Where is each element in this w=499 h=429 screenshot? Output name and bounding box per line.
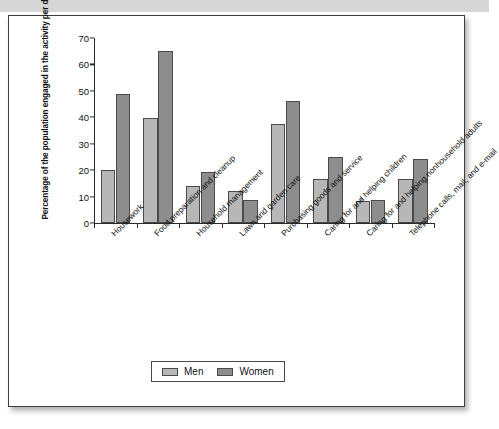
x-tick-mark	[392, 223, 393, 228]
bar-women-5	[328, 157, 343, 223]
legend-swatch-men	[162, 368, 178, 376]
bar-men-1	[143, 118, 158, 222]
legend-swatch-women	[217, 368, 233, 376]
x-tick-mark	[264, 223, 265, 228]
plot-region: 010203040506070	[94, 38, 434, 224]
x-tick-mark	[349, 223, 350, 228]
y-tick-mark	[90, 37, 94, 38]
y-tick-mark	[90, 170, 94, 171]
x-tick-mark	[307, 223, 308, 228]
chart-card: Percentage of the population engaged in …	[8, 15, 465, 407]
chart-legend: Men Women	[151, 361, 285, 382]
legend-item-men: Men	[162, 366, 203, 377]
y-tick-label: 70	[78, 33, 89, 44]
legend-label-men: Men	[184, 366, 203, 377]
y-tick-label: 20	[78, 165, 89, 176]
page-top-band	[0, 0, 489, 12]
x-tick-mark	[222, 223, 223, 228]
y-tick-mark	[90, 196, 94, 197]
legend-label-women: Women	[239, 366, 273, 377]
y-axis-line	[94, 38, 95, 224]
x-tick-mark	[94, 223, 95, 228]
y-tick-mark	[90, 143, 94, 144]
y-axis-title: Percentage of the population engaged in …	[41, 34, 51, 219]
bar-women-3	[243, 200, 258, 222]
bar-women-0	[116, 94, 131, 222]
legend-item-women: Women	[217, 366, 273, 377]
x-tick-mark	[137, 223, 138, 228]
bar-women-4	[286, 101, 301, 223]
y-tick-label: 60	[78, 59, 89, 70]
y-tick-label: 10	[78, 191, 89, 202]
bar-men-6	[356, 201, 371, 222]
bar-men-7	[398, 179, 413, 223]
bar-men-2	[186, 186, 201, 223]
y-tick-mark	[90, 117, 94, 118]
bar-women-2	[201, 172, 216, 222]
x-tick-mark	[434, 223, 435, 228]
bar-men-3	[228, 191, 243, 223]
y-tick-mark	[90, 64, 94, 65]
bar-women-1	[158, 51, 173, 223]
x-tick-mark	[179, 223, 180, 228]
y-tick-mark	[90, 90, 94, 91]
bar-women-7	[413, 159, 428, 222]
scan-artifact-speck	[360, 198, 363, 201]
y-tick-label: 0	[84, 218, 89, 229]
bar-men-4	[271, 124, 286, 223]
y-axis-title-container: Percentage of the population engaged in …	[33, 34, 59, 219]
y-tick-label: 40	[78, 112, 89, 123]
y-tick-label: 50	[78, 85, 89, 96]
y-tick-label: 30	[78, 138, 89, 149]
plot-frame: 010203040506070	[94, 38, 434, 224]
bar-chart: Percentage of the population engaged in …	[9, 16, 464, 406]
bar-men-0	[101, 170, 116, 223]
bar-women-6	[371, 200, 386, 222]
bar-men-5	[313, 179, 328, 223]
